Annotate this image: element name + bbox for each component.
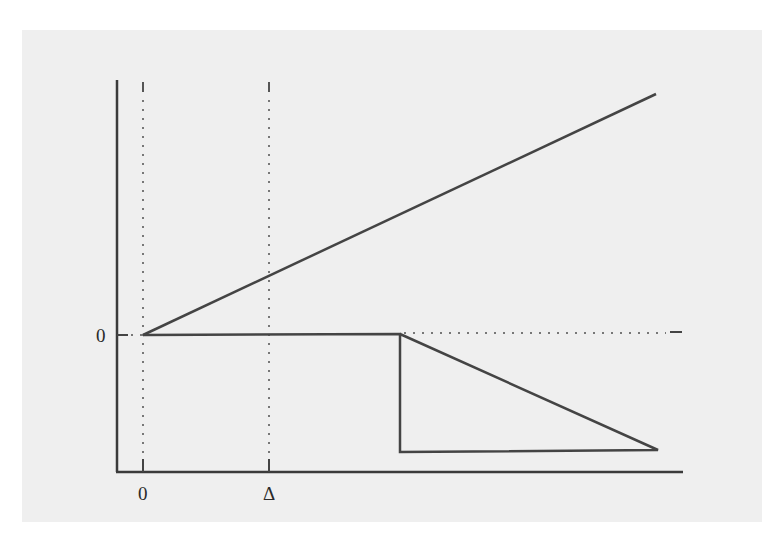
y-tick-label-zero: 0: [96, 326, 106, 345]
rising-line: [143, 94, 656, 335]
diagram: [0, 0, 780, 550]
x-tick-label-zero: 0: [138, 484, 148, 503]
flat-then-drop-curve: [143, 334, 658, 452]
x-tick-label-delta: Δ: [263, 484, 275, 503]
